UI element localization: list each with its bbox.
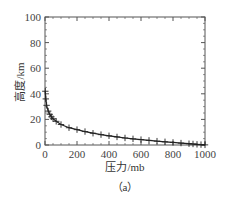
y-tick-label: 20: [30, 113, 42, 125]
plus-marker: [82, 128, 88, 134]
plus-marker: [58, 121, 64, 127]
x-tick-label: 200: [69, 148, 86, 160]
plus-marker: [146, 137, 152, 143]
x-tick-label: 0: [42, 148, 48, 160]
pressure-altitude-chart: 020406080100 02004006008001000 高度/km 压力/…: [0, 0, 227, 202]
x-axis-label: 压力/mb: [105, 161, 145, 173]
y-tick-label: 0: [36, 139, 42, 151]
y-axis-label: 高度/km: [13, 62, 26, 102]
plus-marker: [74, 126, 80, 132]
plus-marker: [130, 136, 136, 142]
plus-marker: [90, 130, 96, 136]
plus-marker: [154, 138, 160, 144]
y-axis-ticks: 020406080100: [25, 11, 206, 151]
plus-marker: [66, 125, 72, 131]
y-tick-label: 60: [30, 62, 42, 74]
y-tick-label: 100: [25, 11, 42, 23]
y-tick-label: 80: [30, 37, 42, 49]
plus-marker: [162, 139, 168, 145]
plus-marker: [43, 96, 49, 102]
plus-marker: [98, 131, 104, 137]
plus-marker: [122, 135, 128, 141]
x-tick-label: 1000: [194, 148, 217, 160]
y-tick-label: 40: [30, 88, 42, 100]
data-series: [42, 88, 208, 148]
x-tick-label: 800: [165, 148, 182, 160]
plus-marker: [106, 133, 112, 139]
plus-marker: [138, 136, 144, 142]
plus-marker: [114, 134, 120, 140]
figure-caption: （a）: [112, 181, 139, 193]
x-tick-label: 400: [101, 148, 118, 160]
plus-marker: [43, 102, 49, 108]
x-tick-label: 600: [133, 148, 150, 160]
